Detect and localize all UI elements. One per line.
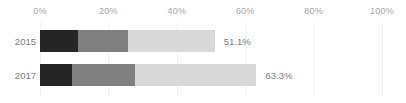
x-tick-label: 0% (33, 6, 46, 16)
bar-row-2017 (0, 64, 406, 86)
bar-segment-2015-segment-3 (128, 30, 215, 52)
x-tick-label: 100% (370, 6, 394, 16)
x-tick-label: 40% (167, 6, 186, 16)
x-tick-label: 20% (99, 6, 118, 16)
bar-segment-2015-segment-1 (40, 30, 78, 52)
x-tick-label: 80% (304, 6, 323, 16)
bar-segment-2017-segment-1 (40, 64, 72, 86)
bar-segment-2015-segment-2 (78, 30, 128, 52)
bar-total-label-2017: 63.3% (265, 70, 292, 81)
bar-segment-2017-segment-2 (72, 64, 135, 86)
x-tick-label: 60% (236, 6, 255, 16)
bar-row-2015 (0, 30, 406, 52)
bar-total-label-2015: 51.1% (224, 36, 251, 47)
stacked-bar-chart: 0%20%40%60%80%100% 20152017 51.1%63.3% (0, 0, 406, 103)
bar-segment-2017-segment-3 (135, 64, 256, 86)
